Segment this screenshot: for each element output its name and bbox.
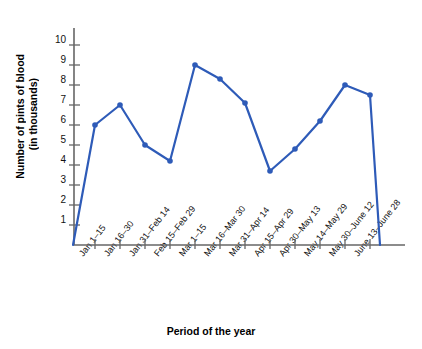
data-point	[292, 146, 298, 152]
data-point	[342, 82, 348, 88]
data-point	[92, 122, 98, 128]
data-point	[242, 100, 248, 106]
data-point	[267, 168, 273, 174]
plot-area	[0, 0, 422, 349]
data-point-markers	[92, 62, 373, 174]
axis-lines	[74, 28, 405, 245]
x-tick-marks	[95, 239, 370, 249]
data-point	[367, 92, 373, 98]
data-point	[167, 158, 173, 164]
data-point	[217, 76, 223, 82]
data-point	[142, 142, 148, 148]
data-point	[117, 102, 123, 108]
blood-donation-line-chart: Number of pints of blood (in thousands) …	[0, 0, 422, 349]
data-series-line	[73, 65, 380, 245]
data-point	[317, 118, 323, 124]
data-point	[192, 62, 198, 68]
